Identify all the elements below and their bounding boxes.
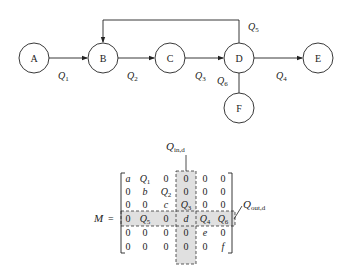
node-c: C bbox=[155, 43, 185, 73]
svg-text:0: 0 bbox=[184, 227, 189, 238]
svg-text:0: 0 bbox=[221, 227, 226, 238]
svg-text:a: a bbox=[126, 173, 131, 184]
svg-text:0: 0 bbox=[164, 173, 169, 184]
svg-text:D: D bbox=[235, 53, 242, 64]
svg-text:0: 0 bbox=[184, 173, 189, 184]
svg-text:0: 0 bbox=[221, 199, 226, 210]
svg-text:0: 0 bbox=[203, 241, 208, 252]
svg-text:0: 0 bbox=[126, 241, 131, 252]
label-q4: Q4 bbox=[276, 70, 287, 83]
svg-text:Q2: Q2 bbox=[161, 186, 172, 199]
svg-text:0: 0 bbox=[126, 199, 131, 210]
matrix: M = Qin,d Qout,d a Q1 0 0 0 0 0 b Q2 0 0… bbox=[93, 140, 266, 264]
svg-text:b: b bbox=[143, 186, 148, 197]
edge-d-b-loop bbox=[103, 20, 239, 43]
svg-text:0: 0 bbox=[164, 213, 169, 224]
svg-text:E: E bbox=[315, 53, 321, 64]
svg-text:Q1: Q1 bbox=[140, 173, 151, 186]
svg-text:A: A bbox=[30, 53, 38, 64]
svg-text:F: F bbox=[236, 103, 242, 114]
svg-text:f: f bbox=[222, 241, 226, 252]
svg-text:0: 0 bbox=[126, 227, 131, 238]
svg-text:0: 0 bbox=[143, 199, 148, 210]
node-e: E bbox=[303, 43, 333, 73]
label-q3: Q3 bbox=[195, 70, 206, 83]
svg-text:0: 0 bbox=[143, 241, 148, 252]
svg-text:0: 0 bbox=[126, 186, 131, 197]
svg-text:0: 0 bbox=[143, 227, 148, 238]
svg-text:c: c bbox=[164, 199, 169, 210]
svg-text:0: 0 bbox=[126, 213, 131, 224]
q-out-d-label: Qout,d bbox=[243, 198, 266, 212]
svg-text:0: 0 bbox=[184, 241, 189, 252]
label-q5: Q5 bbox=[248, 21, 259, 34]
svg-text:0: 0 bbox=[184, 186, 189, 197]
matrix-name: M bbox=[93, 212, 104, 224]
node-b: B bbox=[88, 43, 118, 73]
svg-text:0: 0 bbox=[203, 199, 208, 210]
label-q2: Q2 bbox=[127, 70, 138, 83]
label-q6: Q6 bbox=[217, 75, 228, 88]
nodes: A B C D E F bbox=[19, 43, 333, 123]
svg-text:0: 0 bbox=[221, 186, 226, 197]
svg-text:B: B bbox=[100, 53, 107, 64]
q-in-d-label: Qin,d bbox=[166, 140, 185, 154]
node-d: D bbox=[224, 43, 254, 73]
svg-text:0: 0 bbox=[164, 241, 169, 252]
svg-text:0: 0 bbox=[203, 173, 208, 184]
node-f: F bbox=[224, 93, 254, 123]
label-q1: Q1 bbox=[58, 70, 69, 83]
svg-text:0: 0 bbox=[221, 173, 226, 184]
svg-text:0: 0 bbox=[164, 227, 169, 238]
svg-text:0: 0 bbox=[203, 186, 208, 197]
matrix-equals: = bbox=[108, 213, 114, 224]
svg-text:C: C bbox=[167, 53, 174, 64]
node-a: A bbox=[19, 43, 49, 73]
diagram-canvas: A B C D E F Q1 Q2 Q3 Q4 Q5 Q6 bbox=[0, 0, 346, 277]
svg-text:e: e bbox=[203, 227, 208, 238]
